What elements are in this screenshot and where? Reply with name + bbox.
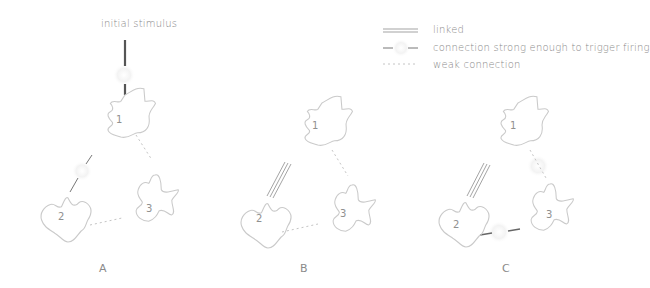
neuron-2 — [41, 198, 91, 242]
weak-connection — [136, 135, 152, 160]
neuron-1-label: 1 — [312, 120, 318, 131]
firing-connection — [70, 178, 78, 192]
firing-connection — [86, 155, 92, 164]
legend-firing-symbol — [383, 39, 418, 57]
neuron-1-label: 1 — [116, 114, 122, 125]
neuron-3-label: 3 — [546, 209, 552, 220]
weak-connection — [332, 150, 348, 176]
legend-symbols — [383, 29, 418, 64]
firing-glow — [113, 64, 135, 86]
panel-a-label: A — [99, 262, 107, 275]
linked-connection — [267, 162, 291, 198]
weak-connection — [90, 218, 122, 225]
panel-c-label: C — [502, 262, 510, 275]
neuron-3-label: 3 — [146, 203, 152, 214]
neuron-2 — [439, 203, 489, 247]
stimulus-label: initial stimulus — [101, 18, 177, 29]
neuron-3 — [531, 184, 573, 231]
neuron-2-label: 2 — [256, 213, 262, 224]
neuron-2 — [241, 204, 291, 248]
neuron-2-label: 2 — [58, 211, 64, 222]
neuron-3-label: 3 — [340, 208, 346, 219]
legend-linked-label: linked — [433, 24, 464, 35]
legend-firing-label: connection strong enough to trigger firi… — [433, 42, 650, 53]
linked-connection — [467, 163, 490, 198]
neuron-1 — [501, 96, 549, 145]
neuron-1-label: 1 — [510, 120, 516, 131]
panel-b — [241, 96, 375, 248]
neuron-3 — [136, 175, 178, 222]
legend-weak-label: weak connection — [433, 59, 521, 70]
legend-linked-symbol — [383, 29, 418, 32]
neuron-1 — [108, 88, 156, 137]
firing-glow — [488, 221, 510, 243]
firing-glow — [527, 155, 549, 177]
panel-b-label: B — [300, 262, 308, 275]
firing-glow — [72, 161, 92, 181]
neuron-2-label: 2 — [453, 219, 459, 230]
